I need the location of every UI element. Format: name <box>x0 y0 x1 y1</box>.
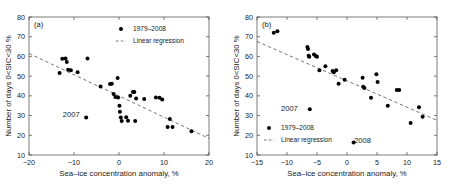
annotation-label: 2007 <box>281 104 298 113</box>
data-point <box>124 115 128 119</box>
data-point <box>120 119 124 123</box>
data-point <box>334 68 338 72</box>
y-tick-label: 60 <box>17 52 25 61</box>
data-point <box>362 86 366 90</box>
legend-marker-icon <box>119 27 123 31</box>
data-point <box>306 47 310 51</box>
y-axis-title: Number of days 0<SIC<30 % <box>232 35 241 136</box>
data-point <box>369 96 373 100</box>
data-point <box>99 84 103 88</box>
data-point <box>315 55 319 59</box>
data-point <box>133 119 137 123</box>
x-tick-label: 20 <box>205 158 213 167</box>
data-point <box>337 82 341 86</box>
data-point <box>374 72 378 76</box>
data-point <box>307 55 311 59</box>
x-tick-label: 10 <box>403 158 411 167</box>
x-tick-label: −5 <box>313 158 321 167</box>
data-point <box>110 82 114 86</box>
data-point <box>409 121 413 125</box>
y-tick-label: 20 <box>17 131 25 140</box>
data-point <box>69 68 73 72</box>
x-tick-label: −10 <box>281 158 293 167</box>
x-tick-label: 15 <box>433 158 441 167</box>
data-point <box>119 116 123 120</box>
y-tick-label: 50 <box>245 72 253 81</box>
data-point <box>317 68 321 72</box>
data-point <box>65 60 69 64</box>
x-tick-label: 5 <box>375 158 379 167</box>
y-tick-label: 30 <box>17 111 25 120</box>
legend-marker-icon <box>267 126 271 130</box>
data-point <box>275 29 279 33</box>
data-point <box>84 116 88 120</box>
data-point <box>417 105 421 109</box>
data-point <box>168 117 172 121</box>
annotation-label: 2007 <box>63 110 80 119</box>
panel-a: 1020304050607080−20−1001020Sea–ice conce… <box>0 0 228 188</box>
legend-regression-label: Linear regression <box>281 136 332 144</box>
x-axis-title: Sea–ice concentration anomaly, % <box>59 169 179 178</box>
data-point <box>308 107 312 111</box>
figure-container: 1020304050607080−20−1001020Sea–ice conce… <box>0 0 456 188</box>
data-point <box>421 115 425 119</box>
y-axis-title: Number of days 0<SIC<30 % <box>4 35 13 136</box>
y-tick-label: 80 <box>17 13 25 22</box>
scatter-plot-b: 1020304050607080−15−10−5051015Sea–ice co… <box>228 0 456 188</box>
x-tick-label: 10 <box>160 158 168 167</box>
annotation-label: 2008 <box>354 136 371 145</box>
scatter-plot-a: 1020304050607080−20−1001020Sea–ice conce… <box>0 0 228 188</box>
data-point <box>118 110 122 114</box>
data-point <box>117 104 121 108</box>
data-point <box>58 71 62 75</box>
data-point <box>166 125 170 129</box>
data-point <box>116 95 120 99</box>
data-point <box>86 57 90 61</box>
panel-b: 1020304050607080−15−10−5051015Sea–ice co… <box>228 0 456 188</box>
data-point <box>189 129 193 133</box>
data-point <box>376 80 380 84</box>
x-tick-label: 0 <box>345 158 349 167</box>
panel-tag-label: (a) <box>34 20 44 29</box>
y-tick-label: 40 <box>17 91 25 100</box>
y-tick-label: 20 <box>245 131 253 140</box>
data-point <box>160 97 164 101</box>
data-point <box>171 125 175 129</box>
data-point <box>154 95 158 99</box>
panel-tag-label: (b) <box>262 20 272 29</box>
data-point <box>386 104 390 108</box>
y-tick-label: 70 <box>17 32 25 41</box>
x-axis-title: Sea–ice concentration anomaly, % <box>287 169 407 178</box>
plot-frame <box>257 17 437 155</box>
data-point <box>361 76 365 80</box>
y-tick-label: 50 <box>17 72 25 81</box>
data-point <box>343 78 347 82</box>
legend-series-label: 1979–2008 <box>281 124 314 131</box>
data-point <box>142 97 146 101</box>
x-tick-label: −15 <box>251 158 263 167</box>
x-tick-label: −20 <box>23 158 35 167</box>
y-tick-label: 40 <box>245 91 253 100</box>
data-point <box>128 94 132 98</box>
x-tick-label: 0 <box>117 158 121 167</box>
data-point <box>134 97 138 101</box>
y-tick-label: 80 <box>245 13 253 22</box>
y-tick-label: 70 <box>245 32 253 41</box>
y-tick-label: 30 <box>245 111 253 120</box>
legend-regression-label: Linear regression <box>133 37 184 45</box>
x-tick-label: −10 <box>68 158 80 167</box>
data-point <box>116 76 120 80</box>
data-point <box>126 119 130 123</box>
data-point <box>132 90 136 94</box>
data-point <box>76 70 80 74</box>
y-tick-label: 60 <box>245 52 253 61</box>
data-point <box>323 64 327 68</box>
data-point <box>397 88 401 92</box>
data-point <box>272 31 276 35</box>
legend-series-label: 1979–2008 <box>133 25 166 32</box>
